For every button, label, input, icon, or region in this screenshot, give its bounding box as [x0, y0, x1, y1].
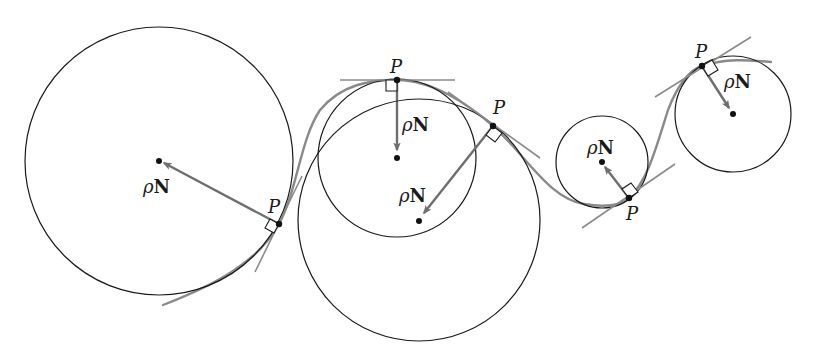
normal-vector-arrow — [164, 163, 279, 224]
center-of-curvature-dot — [156, 158, 162, 164]
center-of-curvature-dot — [416, 218, 422, 224]
point-p-dot — [699, 63, 705, 69]
center-of-curvature-dot — [730, 111, 736, 117]
rho-n-label: ρN — [398, 185, 426, 206]
rho-n-label: ρN — [142, 176, 170, 197]
rho-n-label: ρN — [401, 114, 429, 135]
osculating-circle-2: P ρN — [318, 56, 476, 237]
point-p-dot — [626, 195, 632, 201]
osculating-circle-4: P ρN — [556, 116, 675, 228]
point-p-label: P — [625, 203, 639, 224]
osculating-circle-1: P ρN — [25, 27, 302, 295]
osculating-circles-diagram: P ρN P ρN P ρN P ρN — [0, 0, 816, 360]
osculating-circle-5: P ρN — [655, 37, 791, 172]
plane-curve — [163, 60, 771, 305]
point-p-dot — [394, 77, 400, 83]
rho-n-label: ρN — [586, 137, 614, 158]
point-p-label: P — [267, 196, 281, 217]
center-of-curvature-dot — [394, 155, 400, 161]
point-p-dot — [276, 221, 282, 227]
point-p-label: P — [389, 56, 403, 77]
normal-vector-arrow — [424, 126, 493, 213]
center-of-curvature-dot — [599, 159, 605, 165]
point-p-label: P — [694, 41, 708, 62]
point-p-dot — [490, 123, 496, 129]
rho-n-label: ρN — [723, 71, 751, 92]
point-p-label: P — [492, 97, 506, 118]
